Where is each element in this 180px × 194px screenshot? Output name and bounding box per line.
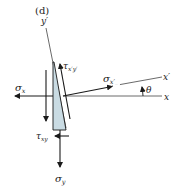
panel-label: (d): [35, 5, 49, 16]
sigma-x-prime-label: σx′: [103, 73, 115, 86]
sigma-x-prime-arrow: [63, 87, 112, 97]
theta-arc-icon: [142, 87, 143, 96]
x-prime-axis-label: x′: [163, 72, 170, 82]
tau-xy-label: τxy: [36, 131, 48, 143]
tau-x-prime-y-prime-label: τx′y′: [63, 61, 78, 73]
sigma-x-label: σx: [15, 82, 26, 95]
y-prime-label: y′: [40, 16, 48, 26]
x-axis-label: x: [164, 92, 169, 102]
sigma-y-label: σy: [55, 173, 66, 186]
stress-transformation-diagram: (d) y′ x x′ θ σx σx′ τx′y′ τxy σy: [0, 0, 180, 194]
theta-label: θ: [146, 85, 152, 95]
